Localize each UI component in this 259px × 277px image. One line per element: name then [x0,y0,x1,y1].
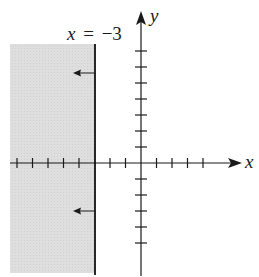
y-axis [135,11,147,276]
x-axis-label: x [244,151,254,172]
y-axis-label: y [148,5,159,26]
boundary-label: x = −3 [66,23,122,44]
shaded-region [10,44,95,273]
inequality-graph: x = −3 y x [0,0,259,277]
